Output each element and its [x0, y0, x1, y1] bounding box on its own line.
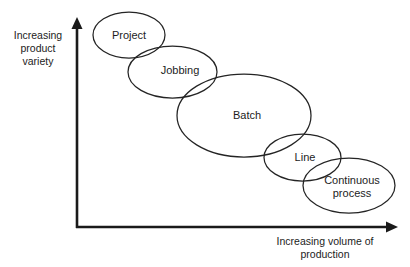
x-axis-group [76, 222, 398, 233]
ellipse-batch [177, 74, 311, 157]
y-axis-label: Increasing product variety [2, 29, 74, 68]
x-axis-label: Increasing volume of production [255, 235, 395, 261]
right-arrow-icon [386, 222, 398, 233]
ellipse-jobbing [128, 46, 217, 98]
ellipse-continuous-process [303, 158, 395, 213]
ellipse-line [264, 134, 341, 181]
up-arrow-icon [72, 17, 83, 29]
ellipse-project [93, 12, 165, 58]
process-variety-volume-diagram: Project Jobbing Batch Line Continuous pr… [0, 0, 410, 267]
